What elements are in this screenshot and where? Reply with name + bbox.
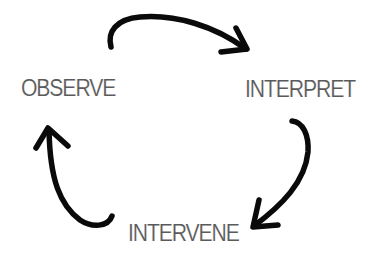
- cycle-diagram: OBSERVE INTERPRET INTERVENE: [0, 0, 368, 254]
- arrow-intervene-to-observe: [36, 128, 112, 225]
- stage-label-intervene: INTERVENE: [128, 222, 239, 245]
- arrow-observe-to-interpret: [110, 17, 247, 52]
- stage-label-observe: OBSERVE: [21, 77, 115, 100]
- cycle-arrows: [0, 0, 368, 254]
- stage-label-interpret: INTERPRET: [245, 78, 355, 101]
- arrow-interpret-to-intervene: [253, 121, 308, 227]
